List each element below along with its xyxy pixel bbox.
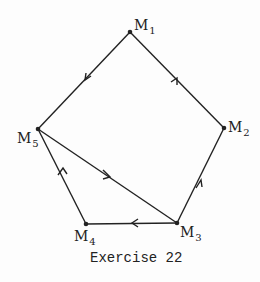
node-m1 xyxy=(128,30,133,35)
node-m5 xyxy=(36,127,41,132)
label-m4: M4 xyxy=(74,228,96,247)
label-m2: M2 xyxy=(228,119,250,138)
node-m2 xyxy=(222,126,227,131)
label-m3: M3 xyxy=(180,224,202,243)
directed-graph: M1 M2 M3 M4 M5 Exercise 22 xyxy=(0,0,260,282)
label-m1: M1 xyxy=(134,17,156,36)
edge-m4-m5 xyxy=(38,129,86,224)
edge-m3-m2 xyxy=(177,128,224,223)
node-m3 xyxy=(175,221,180,226)
caption: Exercise 22 xyxy=(90,250,182,266)
label-m5: M5 xyxy=(17,130,39,149)
edge-m1-m5 xyxy=(38,32,130,129)
arrow-icon xyxy=(171,78,177,85)
node-m4 xyxy=(84,222,89,227)
edge-m5-m3 xyxy=(38,129,177,223)
